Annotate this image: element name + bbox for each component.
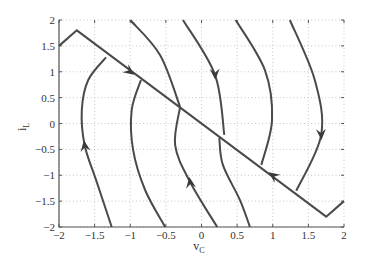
x-tick-label: −0.5 — [156, 229, 176, 241]
trajectory-5 — [236, 20, 272, 165]
y-tick-label: 1 — [50, 66, 56, 78]
y-tick-label: −0.5 — [35, 143, 55, 155]
x-tick-label: −1 — [124, 229, 136, 241]
phase-portrait-chart: −2−1.5−1−0.500.511.52 21.510.50−0.5−1−1.… — [0, 0, 366, 267]
trajectory-3b — [175, 107, 217, 227]
trajectory-4a — [183, 20, 224, 135]
y-axis-label: iL — [15, 123, 31, 131]
direction-arrows — [81, 64, 326, 188]
trajectory-6 — [290, 20, 322, 191]
x-tick-labels: −2−1.5−1−0.500.511.52 — [53, 229, 347, 241]
y-tick-label: 0.5 — [41, 92, 55, 104]
x-tick-label: 0.5 — [230, 229, 244, 241]
arrow-head-icon — [210, 69, 220, 80]
x-axis-label: vC — [193, 239, 204, 255]
y-tick-label: 2 — [50, 14, 56, 26]
x-tick-label: −1.5 — [85, 229, 105, 241]
trajectory-1 — [82, 57, 112, 227]
x-tick-label: 0 — [199, 229, 205, 241]
x-tick-label: 1 — [270, 229, 276, 241]
trajectory-2 — [131, 80, 165, 227]
y-tick-label: −1 — [43, 169, 55, 181]
trajectory-4b — [219, 138, 250, 227]
x-tick-label: 1.5 — [302, 229, 316, 241]
y-tick-label: 1.5 — [41, 40, 55, 52]
x-tick-label: 2 — [341, 229, 347, 241]
y-tick-label: −1.5 — [35, 195, 55, 207]
y-tick-labels: 21.510.50−0.5−1−1.5−2 — [35, 14, 55, 233]
trajectory-3a — [130, 20, 180, 107]
y-tick-label: −2 — [43, 221, 55, 233]
y-tick-label: 0 — [50, 118, 56, 130]
